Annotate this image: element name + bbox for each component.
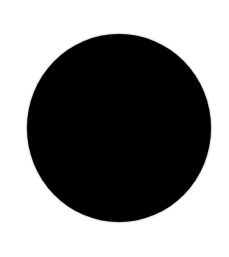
canvas xyxy=(0,0,229,257)
black-circle-shape xyxy=(27,34,211,222)
